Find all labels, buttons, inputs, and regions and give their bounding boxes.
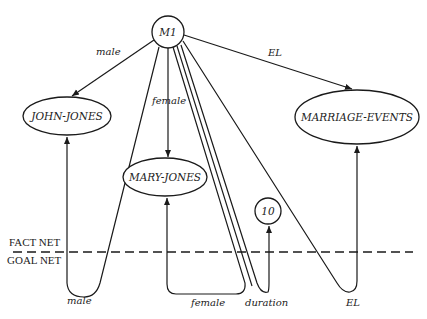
node-marriage-events-label: MARRIAGE-EVENTS — [300, 111, 413, 123]
node-ten: 10 — [255, 198, 281, 224]
edge-label-male: male — [96, 46, 121, 57]
edge-label-el: EL — [267, 47, 282, 58]
node-john-jones-label: JOHN-JONES — [29, 110, 103, 122]
node-john-jones: JOHN-JONES — [23, 97, 111, 135]
goal-label-male: male — [67, 295, 92, 306]
edge-label-female: female — [151, 95, 186, 106]
goal-label-female: female — [190, 297, 225, 308]
goal-label-el: EL — [345, 297, 360, 308]
node-m1: M1 — [152, 16, 184, 48]
goal-label-duration: duration — [245, 297, 288, 308]
goal-net-label: GOAL NET — [7, 254, 62, 266]
node-ten-label: 10 — [261, 205, 275, 217]
fact-net-label: FACT NET — [9, 236, 61, 248]
node-marriage-events: MARRIAGE-EVENTS — [295, 90, 419, 144]
node-mary-jones: MARY-JONES — [123, 158, 207, 196]
node-m1-label: M1 — [158, 26, 176, 38]
node-mary-jones-label: MARY-JONES — [128, 171, 201, 183]
semantic-network-diagram: FACT NET GOAL NET male female EL male fe… — [0, 0, 427, 319]
edge-m1-el-marriage — [184, 35, 352, 89]
